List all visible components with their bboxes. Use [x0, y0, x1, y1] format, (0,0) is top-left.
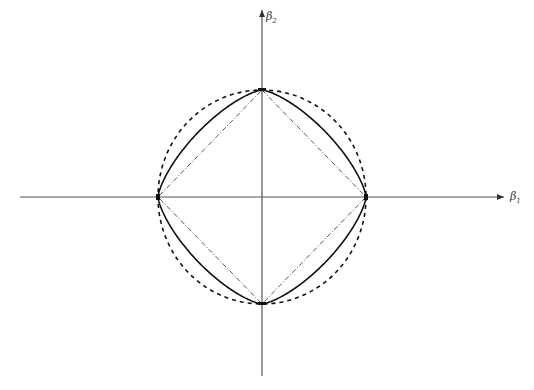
x-axis-label: β1 — [509, 190, 521, 205]
y-axis-label: β2 — [265, 10, 277, 25]
constraint-diagram: β2 β1 — [0, 0, 534, 390]
